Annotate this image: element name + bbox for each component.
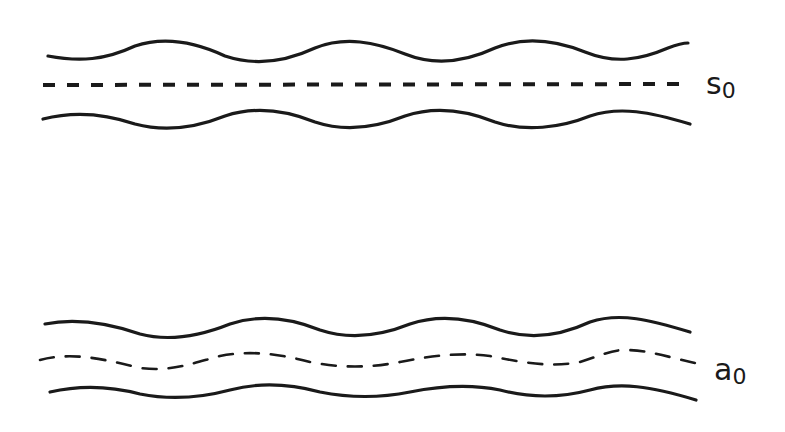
label-s0-subscript: 0 — [722, 78, 736, 103]
label-a0: a0 — [714, 352, 746, 387]
band-s-upper-wall — [48, 41, 688, 62]
band-a-centerline — [40, 350, 700, 369]
band-s-lower-wall — [43, 110, 690, 128]
band-a-upper-wall — [45, 317, 690, 337]
label-s0: s0 — [706, 66, 736, 101]
label-s0-main: s — [706, 66, 722, 101]
label-a0-subscript: 0 — [732, 364, 746, 389]
diagram-canvas — [0, 0, 785, 432]
band-a-lower-wall — [50, 385, 696, 400]
label-a0-main: a — [714, 352, 732, 387]
band-s-centerline — [43, 84, 690, 85]
